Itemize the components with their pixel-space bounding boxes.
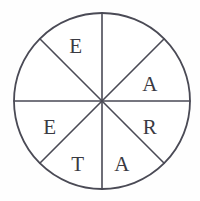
sector-label-bottom-right: A bbox=[114, 152, 130, 176]
sector-label-bottom-left: T bbox=[71, 152, 84, 176]
wheel-diagram: A R A T E E bbox=[0, 0, 200, 201]
sector-label-right-upper: A bbox=[142, 72, 158, 96]
sector-label-right-lower: R bbox=[143, 115, 158, 139]
sector-label-top-left: E bbox=[69, 34, 82, 58]
sector-label-left-lower: E bbox=[43, 115, 56, 139]
wheel-figure: A R A T E E bbox=[0, 0, 200, 201]
